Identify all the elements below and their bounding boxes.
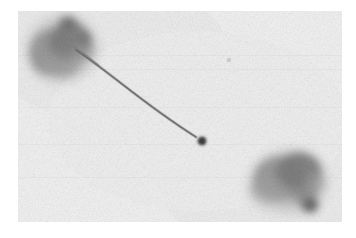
- film-grain-overlay-multiply: [18, 11, 342, 222]
- figure-page: Electron micrograph / autoradiograph of …: [0, 0, 356, 238]
- micrograph-plate: [18, 11, 342, 222]
- micrograph-canvas: [18, 11, 342, 222]
